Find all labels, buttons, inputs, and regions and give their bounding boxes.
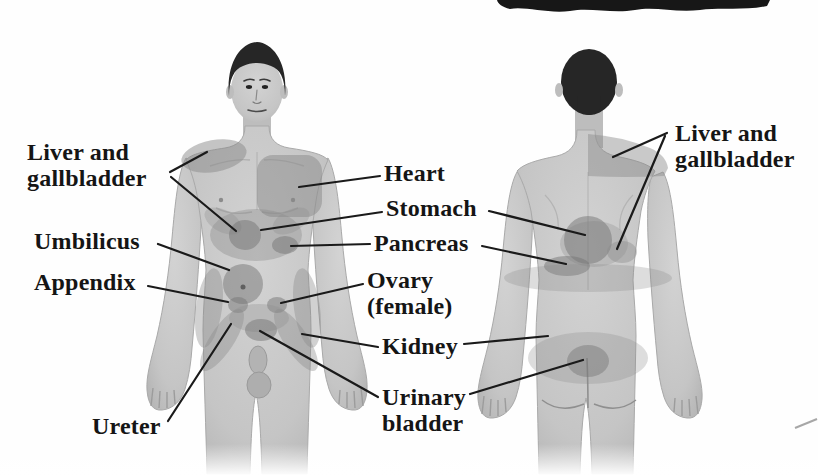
- label-urinary-bladder: Urinary bladder: [382, 384, 466, 436]
- page-edge-artifact: [497, 0, 770, 12]
- bottom-fade: [0, 444, 818, 476]
- ear: [226, 85, 234, 99]
- label-heart: Heart: [384, 160, 445, 186]
- navel: [241, 285, 246, 290]
- label-liver-gallbladder-right: Liver and gallbladder: [675, 120, 795, 172]
- label-kidney: Kidney: [382, 333, 458, 359]
- pain-stomach-front: [229, 220, 261, 250]
- ear: [280, 85, 288, 99]
- pain-sacral: [567, 345, 609, 377]
- label-pancreas: Pancreas: [374, 230, 468, 256]
- label-liver-gallbladder-left: Liver and gallbladder: [27, 139, 147, 191]
- label-umbilicus: Umbilicus: [34, 228, 140, 254]
- posterior-left-arm: [478, 172, 533, 418]
- nipple: [219, 198, 223, 202]
- label-ovary-female: Ovary (female): [367, 267, 453, 319]
- posterior-figure: [478, 49, 702, 474]
- scan-streak: [795, 419, 817, 428]
- pain-liver-lower-back: [607, 241, 637, 263]
- anterior-figure: [147, 42, 367, 474]
- posterior-right-arm: [648, 172, 703, 418]
- ear: [555, 83, 563, 97]
- label-appendix: Appendix: [34, 269, 136, 295]
- ear: [615, 83, 623, 97]
- label-ureter: Ureter: [92, 413, 161, 439]
- posterior-torso-legs: [517, 130, 655, 474]
- textbook-figure: Liver and gallbladder Umbilicus Appendix…: [0, 0, 818, 476]
- pain-waist-band: [504, 264, 672, 292]
- label-stomach: Stomach: [386, 195, 477, 221]
